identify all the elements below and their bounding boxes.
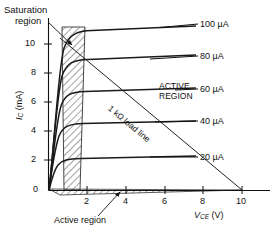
- saturation-region-band: [62, 27, 85, 190]
- cutoff-region-band: [49, 189, 242, 195]
- active-region-label: ACTIVE REGION: [159, 82, 193, 102]
- x-tick-2: 2: [84, 196, 89, 206]
- x-axis-unit: (V): [209, 210, 224, 220]
- y-tick-0: 0: [33, 184, 38, 194]
- x-tick-6: 6: [162, 196, 167, 206]
- y-axis-symbol: I: [14, 117, 24, 120]
- curve-label-80ua: 80 µA: [200, 51, 224, 61]
- saturation-region-label: Saturation region: [4, 5, 47, 27]
- cutoff-region-label: Active region: [54, 215, 106, 225]
- x-tick-4: 4: [123, 196, 128, 206]
- curve-label-60ua: 60 µA: [200, 84, 224, 94]
- active-region-label-line2: REGION: [159, 92, 193, 102]
- y-tick-10: 10: [25, 38, 35, 48]
- x-axis-title: VCE (V): [194, 210, 224, 220]
- y-axis-title: IC (mA): [14, 91, 24, 120]
- y-tick-2: 2: [31, 154, 36, 164]
- x-tick-8: 8: [200, 196, 205, 206]
- y-axis-subscript: C: [17, 113, 24, 118]
- curve-label-20ua: 20 µA: [200, 152, 224, 162]
- curve-label-40ua: 40 µA: [200, 116, 224, 126]
- saturation-region-label-line2: region: [4, 16, 47, 27]
- curve-label-100ua: 100 µA: [200, 19, 229, 29]
- y-tick-4: 4: [31, 125, 36, 135]
- x-tick-10: 10: [236, 196, 246, 206]
- x-axis-subscript: CE: [200, 213, 209, 220]
- cutoff-leader-arrow: [98, 192, 120, 216]
- y-tick-8: 8: [31, 67, 36, 77]
- plot-canvas: [0, 0, 275, 235]
- y-tick-6: 6: [31, 96, 36, 106]
- y-axis-unit: (mA): [14, 91, 24, 113]
- transistor-output-characteristics-figure: Saturation region 10 8 6 4 2 0 2 4 6 8 1…: [0, 0, 275, 235]
